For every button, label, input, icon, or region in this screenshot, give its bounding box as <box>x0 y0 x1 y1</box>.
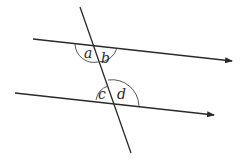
transversal-line <box>80 7 131 153</box>
top-parallel-line <box>33 39 232 61</box>
angle-c-label: c <box>98 86 106 102</box>
angle-b-label: b <box>101 50 110 66</box>
angle-d-label: d <box>117 86 126 102</box>
angle-a-label: a <box>84 45 92 61</box>
parallel-lines-diagram: a b c d <box>0 0 240 160</box>
